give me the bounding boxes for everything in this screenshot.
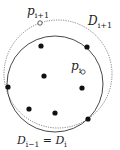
filled-point — [85, 116, 90, 121]
filled-point — [26, 106, 31, 111]
filled-point — [79, 85, 84, 90]
open-point — [81, 70, 85, 74]
filled-point — [52, 110, 57, 115]
diagram-canvas: pi+1 Di+1 pi Di−1 = Di — [0, 0, 120, 150]
filled-point — [41, 73, 46, 78]
label-d-i-minus-1-equals-d-i: Di−1 = Di — [16, 134, 67, 149]
label-p-i-plus-1: pi+1 — [27, 4, 49, 20]
filled-points — [5, 43, 90, 121]
filled-point — [5, 84, 10, 89]
filled-point — [38, 43, 43, 48]
label-d-i-plus-1: Di+1 — [87, 14, 112, 30]
filled-point — [84, 44, 89, 49]
circles-diagram: pi+1 Di+1 pi Di−1 = Di — [0, 0, 120, 150]
label-p-i: pi — [71, 59, 82, 75]
open-point — [38, 21, 42, 25]
